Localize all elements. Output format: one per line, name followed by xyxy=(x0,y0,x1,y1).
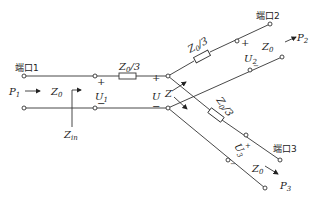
p1-label: P1 xyxy=(8,86,20,99)
power-divider-diagram: 端口1 端口2 端口3 P1 Z0 U1 + − Zin Z0/3 + U − … xyxy=(0,0,312,204)
port3-z0-label: Z0 xyxy=(251,163,264,176)
p2-arrow-icon xyxy=(285,37,296,42)
u1-minus: − xyxy=(97,98,105,109)
circuit-schematic: 端口1 端口2 端口3 P1 Z0 U1 + − Zin Z0/3 + U − … xyxy=(0,0,312,204)
port2-z0-label: Z0 xyxy=(261,41,274,54)
port3-label: 端口3 xyxy=(273,143,297,154)
port1-label: 端口1 xyxy=(15,62,39,73)
z-arrow-down-icon xyxy=(174,97,187,109)
u2-minus: − xyxy=(253,62,259,70)
u3-minus: − xyxy=(230,160,236,168)
u1-plus: + xyxy=(97,76,105,87)
p3-arrow-icon xyxy=(265,166,278,174)
z-arrow-up-icon xyxy=(172,82,186,91)
port1-z0-label: Z0 xyxy=(50,86,63,99)
p2-label: P2 xyxy=(296,32,309,45)
z-label: Z xyxy=(164,88,173,99)
u-minus: − xyxy=(152,101,160,112)
p3-label: P3 xyxy=(279,180,292,193)
r1-label: Z0/3 xyxy=(118,61,140,74)
port2-label: 端口2 xyxy=(256,10,280,21)
u-plus: + xyxy=(152,72,160,83)
u2-plus: + xyxy=(241,37,249,48)
zin-label: Zin xyxy=(63,129,78,142)
